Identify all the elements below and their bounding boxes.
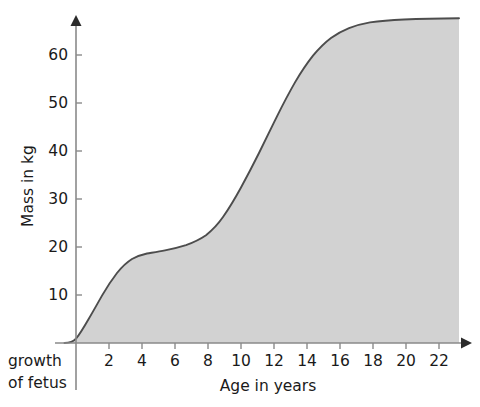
chart-page: 10 20 30 40 50 60 2 4 6 8 10 12 14 16 18… <box>0 0 480 407</box>
y-tick-label-50: 50 <box>48 94 68 112</box>
x-axis-arrow-icon <box>461 338 472 349</box>
y-tick-label-40: 40 <box>48 142 68 160</box>
x-tick-label-2: 2 <box>104 352 114 370</box>
y-tick-label-10: 10 <box>48 286 68 304</box>
x-axis-title: Age in years <box>220 377 317 395</box>
area-fill <box>65 18 460 343</box>
x-tick-label-22: 22 <box>429 352 449 370</box>
x-tick-label-18: 18 <box>363 352 383 370</box>
x-tick-label-14: 14 <box>297 352 317 370</box>
y-tick-label-30: 30 <box>48 190 68 208</box>
y-tick-label-60: 60 <box>48 46 68 64</box>
x-axis-ticks <box>109 343 439 349</box>
growth-chart: 10 20 30 40 50 60 2 4 6 8 10 12 14 16 18… <box>0 0 480 407</box>
x-tick-label-20: 20 <box>396 352 416 370</box>
x-tick-label-8: 8 <box>203 352 213 370</box>
y-tick-label-20: 20 <box>48 238 68 256</box>
x-tick-label-12: 12 <box>264 352 284 370</box>
fetus-note-line-1: growth <box>8 352 62 370</box>
y-axis-arrow-icon <box>71 15 82 26</box>
x-tick-label-6: 6 <box>170 352 180 370</box>
x-tick-label-10: 10 <box>231 352 251 370</box>
x-tick-label-16: 16 <box>330 352 350 370</box>
y-axis-ticks <box>76 55 82 295</box>
fetus-note-line-2: of fetus <box>8 374 67 392</box>
x-tick-label-4: 4 <box>137 352 147 370</box>
y-axis-title: Mass in kg <box>19 145 37 227</box>
